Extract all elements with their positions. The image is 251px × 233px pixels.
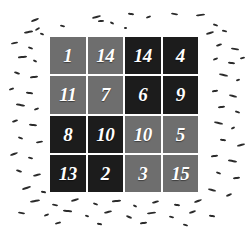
speckle-mark bbox=[231, 47, 239, 50]
puzzle-tile[interactable]: 3 bbox=[125, 155, 161, 192]
puzzle-tile-value: 6 bbox=[138, 85, 147, 104]
speckle-mark bbox=[214, 121, 223, 125]
speckle-mark bbox=[206, 31, 214, 35]
speckle-mark bbox=[55, 221, 61, 224]
speckle-mark bbox=[226, 193, 232, 197]
speckle-mark bbox=[146, 15, 151, 19]
puzzle-tile[interactable]: 7 bbox=[88, 76, 124, 113]
speckle-mark bbox=[235, 110, 240, 113]
speckle-mark bbox=[31, 18, 39, 23]
puzzle-tile-value: 5 bbox=[176, 125, 185, 144]
puzzle-tile[interactable]: 11 bbox=[50, 76, 86, 113]
speckle-mark bbox=[208, 188, 216, 192]
speckle-mark bbox=[237, 143, 245, 147]
speckle-mark bbox=[63, 210, 72, 213]
speckle-mark bbox=[233, 177, 240, 180]
speckle-mark bbox=[18, 211, 25, 214]
speckle-mark bbox=[133, 204, 137, 208]
speckle-mark bbox=[26, 92, 33, 95]
speckle-mark bbox=[12, 119, 18, 123]
speckle-mark bbox=[92, 15, 101, 19]
speckle-mark bbox=[36, 140, 43, 143]
speckle-mark bbox=[41, 191, 46, 194]
speckle-mark bbox=[33, 173, 41, 177]
speckle-mark bbox=[126, 215, 132, 219]
speckle-mark bbox=[222, 30, 227, 33]
speckle-mark bbox=[28, 156, 33, 159]
puzzle-tile[interactable]: 9 bbox=[163, 76, 199, 113]
puzzle-tile[interactable]: 1 bbox=[50, 37, 86, 74]
puzzle-tile-value: 11 bbox=[59, 85, 76, 104]
speckle-mark bbox=[18, 136, 23, 140]
speckle-mark bbox=[52, 203, 58, 206]
speckle-mark bbox=[10, 152, 18, 157]
puzzle-tile-value: 3 bbox=[138, 164, 147, 183]
puzzle-tile-value: 15 bbox=[171, 164, 189, 183]
speckle-mark bbox=[140, 221, 147, 224]
speckle-mark bbox=[219, 73, 228, 77]
speckle-mark bbox=[33, 59, 37, 63]
speckle-mark bbox=[152, 200, 159, 204]
puzzle-tile-value: 14 bbox=[96, 46, 114, 65]
number-puzzle-grid: 11414411769810105132315 bbox=[50, 37, 198, 192]
puzzle-tile[interactable]: 4 bbox=[163, 37, 199, 74]
speckle-mark bbox=[213, 23, 218, 26]
speckle-mark bbox=[22, 186, 31, 191]
speckle-mark bbox=[220, 139, 226, 142]
speckle-mark bbox=[196, 13, 205, 16]
speckle-mark bbox=[9, 87, 14, 90]
puzzle-tile[interactable]: 14 bbox=[88, 37, 124, 74]
puzzle-tile-value: 2 bbox=[101, 164, 110, 183]
puzzle-tile[interactable]: 10 bbox=[125, 116, 161, 153]
speckle-mark bbox=[128, 13, 134, 16]
speckle-mark bbox=[236, 78, 240, 81]
puzzle-tile[interactable]: 15 bbox=[163, 155, 199, 192]
speckle-mark bbox=[97, 223, 102, 226]
speckle-mark bbox=[35, 27, 40, 31]
puzzle-scene: 11414411769810105132315 bbox=[0, 0, 251, 233]
puzzle-tile-value: 9 bbox=[176, 85, 185, 104]
speckle-mark bbox=[85, 214, 89, 217]
speckle-mark bbox=[98, 20, 104, 23]
puzzle-tile-value: 13 bbox=[59, 164, 77, 183]
speckle-mark bbox=[34, 107, 39, 111]
puzzle-tile[interactable]: 5 bbox=[163, 116, 199, 153]
puzzle-tile[interactable]: 8 bbox=[50, 116, 86, 153]
speckle-mark bbox=[14, 71, 20, 75]
speckle-mark bbox=[112, 200, 121, 203]
speckle-mark bbox=[16, 103, 25, 107]
speckle-mark bbox=[44, 213, 49, 217]
speckle-mark bbox=[212, 89, 218, 92]
speckle-mark bbox=[28, 46, 33, 50]
puzzle-tile[interactable]: 10 bbox=[88, 116, 124, 153]
speckle-mark bbox=[216, 43, 222, 47]
speckle-mark bbox=[93, 202, 98, 206]
puzzle-tile[interactable]: 6 bbox=[125, 76, 161, 113]
puzzle-tile-value: 10 bbox=[96, 125, 114, 144]
speckle-mark bbox=[209, 215, 215, 218]
puzzle-tile[interactable]: 14 bbox=[125, 37, 161, 74]
speckle-mark bbox=[211, 155, 218, 158]
speckle-mark bbox=[183, 223, 188, 226]
speckle-mark bbox=[110, 21, 114, 25]
speckle-mark bbox=[60, 24, 65, 27]
speckle-mark bbox=[174, 204, 180, 207]
puzzle-tile-value: 4 bbox=[176, 46, 185, 65]
puzzle-tile[interactable]: 13 bbox=[50, 155, 86, 192]
puzzle-tile-value: 14 bbox=[134, 46, 152, 65]
speckle-mark bbox=[228, 62, 235, 65]
speckle-mark bbox=[228, 159, 237, 163]
speckle-mark bbox=[29, 124, 37, 127]
puzzle-tile[interactable]: 2 bbox=[88, 155, 124, 192]
speckle-mark bbox=[16, 169, 22, 173]
speckle-mark bbox=[229, 94, 237, 98]
speckle-mark bbox=[171, 12, 178, 15]
speckle-mark bbox=[147, 211, 156, 214]
speckle-mark bbox=[30, 199, 40, 203]
puzzle-tile-value: 8 bbox=[63, 125, 72, 144]
puzzle-tile-value: 10 bbox=[134, 125, 152, 144]
speckle-mark bbox=[124, 27, 127, 29]
speckle-mark bbox=[240, 56, 245, 59]
speckle-mark bbox=[213, 57, 218, 61]
speckle-mark bbox=[194, 199, 202, 204]
